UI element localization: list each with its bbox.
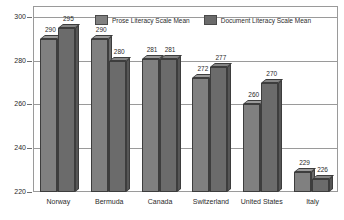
y-tick-mark bbox=[27, 104, 32, 105]
bar-value-label: 295 bbox=[53, 15, 83, 22]
y-tick-mark bbox=[27, 192, 32, 193]
bar-value-label: 272 bbox=[188, 65, 218, 72]
bar-front-face bbox=[294, 172, 311, 192]
y-tick-label: 300 bbox=[0, 13, 26, 20]
legend-swatch-prose bbox=[95, 15, 108, 25]
bar-value-label: 290 bbox=[86, 26, 116, 33]
bar-front-face bbox=[91, 39, 108, 192]
bar bbox=[91, 39, 108, 192]
bar bbox=[210, 67, 227, 192]
x-category-label: Italy bbox=[278, 198, 344, 206]
bar bbox=[58, 28, 75, 192]
legend-item-prose: Prose Literacy Scale Mean bbox=[95, 15, 190, 25]
bar-value-label: 281 bbox=[155, 46, 185, 53]
bar bbox=[142, 59, 159, 192]
bar-front-face bbox=[109, 61, 126, 192]
bar-front-face bbox=[210, 67, 227, 192]
bar-front-face bbox=[243, 104, 260, 192]
bar bbox=[160, 59, 177, 192]
y-tick-label: 280 bbox=[0, 57, 26, 64]
legend-item-document: Document Literacy Scale Mean bbox=[204, 15, 311, 25]
bar-side-face bbox=[329, 176, 333, 192]
bar-front-face bbox=[312, 179, 329, 192]
y-tick-mark bbox=[27, 148, 32, 149]
bar-chart: 300280260240220 Prose Literacy Scale Mea… bbox=[0, 0, 344, 220]
bar bbox=[40, 39, 57, 192]
bar-side-face bbox=[278, 79, 282, 192]
bar-value-label: 270 bbox=[257, 70, 287, 77]
bars-container: 290295290280281281272277260270229226 bbox=[33, 6, 338, 192]
bar-front-face bbox=[160, 59, 177, 192]
bar-front-face bbox=[261, 83, 278, 192]
bar bbox=[312, 179, 329, 192]
bar bbox=[294, 172, 311, 192]
chart-legend: Prose Literacy Scale Mean Document Liter… bbox=[95, 15, 311, 25]
bar bbox=[109, 61, 126, 192]
y-tick-label: 220 bbox=[0, 188, 26, 195]
bar-side-face bbox=[177, 55, 181, 192]
bar-value-label: 277 bbox=[206, 54, 236, 61]
bar-value-label: 290 bbox=[35, 26, 65, 33]
legend-label-document: Document Literacy Scale Mean bbox=[221, 17, 311, 24]
bar-value-label: 226 bbox=[308, 166, 338, 173]
bar-value-label: 280 bbox=[104, 48, 134, 55]
bar-front-face bbox=[58, 28, 75, 192]
bar bbox=[192, 78, 209, 192]
y-tick-mark bbox=[27, 61, 32, 62]
y-tick-label: 260 bbox=[0, 100, 26, 107]
bar-front-face bbox=[142, 59, 159, 192]
legend-label-prose: Prose Literacy Scale Mean bbox=[112, 17, 190, 24]
bar bbox=[243, 104, 260, 192]
bar bbox=[261, 83, 278, 192]
y-tick-mark bbox=[27, 17, 32, 18]
y-tick-label: 240 bbox=[0, 144, 26, 151]
bar-front-face bbox=[40, 39, 57, 192]
bar-value-label: 260 bbox=[239, 91, 269, 98]
legend-swatch-document bbox=[204, 15, 217, 25]
bar-side-face bbox=[126, 58, 130, 192]
bar-side-face bbox=[75, 25, 79, 192]
bar-side-face bbox=[227, 64, 231, 192]
bar-front-face bbox=[192, 78, 209, 192]
